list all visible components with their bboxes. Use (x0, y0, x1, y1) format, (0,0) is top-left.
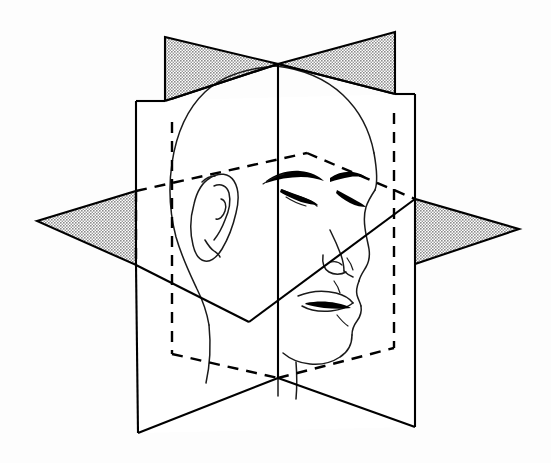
anatomical-planes-figure (0, 0, 551, 463)
planes-diagram (0, 0, 551, 463)
neck-outline-front (296, 362, 297, 399)
